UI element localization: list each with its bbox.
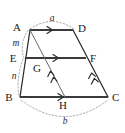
arrow-mark-FC-lower [91,78,98,84]
vertex-label-F: F [90,52,96,64]
arrow-mark-AH-upper [48,71,54,77]
segment-label-n: n [12,71,17,81]
figure-canvas: A D E F G B C H a b m n [0,0,125,133]
arc-m-dotted [22,30,28,58]
segment-label-m: m [13,38,20,48]
vertex-label-D: D [78,22,86,34]
vertex-label-B: B [5,91,12,103]
vertex-label-E: E [10,52,17,64]
arrow-mark-AH-lower [51,77,57,83]
vertex-label-A: A [13,21,21,33]
segment-label-a: a [50,13,55,23]
vertex-label-G: G [33,62,41,74]
arrow-mark-FC-upper [89,73,96,79]
vertex-label-H: H [59,99,67,111]
segment-label-b: b [63,116,68,126]
vertex-label-C: C [112,91,119,103]
transversal-arrow-marks [48,71,57,83]
geometry-figure: A D E F G B C H a b m n [0,0,125,133]
